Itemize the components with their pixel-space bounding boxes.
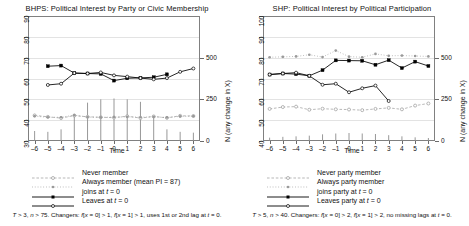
data-point-marker — [33, 115, 36, 118]
data-point-marker — [374, 53, 377, 56]
data-point-marker — [268, 107, 271, 110]
data-point-marker — [152, 78, 155, 81]
legend-item: Never member — [30, 168, 230, 178]
data-point-marker — [192, 67, 195, 70]
legend-item: Leaves party at t = 0 — [265, 197, 465, 207]
data-point-marker — [165, 77, 168, 80]
data-point-marker — [46, 65, 49, 68]
data-point-marker — [400, 108, 403, 111]
legend-label: Never party member — [317, 169, 381, 176]
data-point-marker — [334, 82, 337, 85]
data-point-marker — [308, 74, 311, 77]
legend-label: joins at t = 0 — [82, 188, 120, 195]
footnote-shp: T > 5, n > 40. Changers: f[x = 0] > 2, f… — [235, 211, 469, 218]
data-point-marker — [60, 64, 63, 67]
data-point-marker — [321, 83, 324, 86]
footnote-bhps: T > 3, n > 75. Changers: f[x = 0] > 1, f… — [0, 211, 234, 218]
legend-key-filled-square-icon — [265, 187, 311, 197]
data-point-marker — [281, 72, 284, 75]
data-point-marker — [165, 73, 168, 76]
data-point-marker — [46, 83, 49, 86]
data-point-marker — [414, 55, 417, 58]
legend-label: Always party member — [317, 178, 384, 185]
data-point-marker — [400, 67, 403, 70]
data-point-marker — [348, 91, 351, 94]
legend-label: Never member — [82, 169, 128, 176]
panel-shp: SHP: Political Interest by Political Par… — [235, 0, 469, 226]
data-point-marker — [361, 87, 364, 90]
data-point-marker — [427, 65, 430, 68]
data-point-marker — [46, 116, 49, 119]
figure-two-panel-political-interest: BHPS: Political Interest by Party or Civ… — [0, 0, 469, 226]
data-point-marker — [86, 116, 89, 119]
data-point-marker — [387, 59, 390, 62]
legend-key-filled-square-icon — [30, 187, 76, 197]
legend-bhps: Never memberAlways member (mean PI = 87)… — [30, 168, 230, 206]
data-point-marker — [374, 63, 377, 66]
legend-key-filled-circle-small-icon — [265, 178, 311, 188]
legend-label: Leaves at t = 0 — [82, 197, 128, 204]
data-point-marker — [99, 116, 102, 119]
y2-axis-title-shp: N (any change in X) — [459, 80, 466, 142]
series-line — [48, 69, 194, 85]
data-point-marker — [99, 71, 102, 74]
legend-key-open-circle-icon — [265, 168, 311, 178]
data-point-marker — [73, 114, 76, 117]
data-point-marker — [152, 115, 155, 118]
legend-item: Leaves at t = 0 — [30, 197, 230, 207]
data-point-marker — [321, 56, 324, 59]
legend-key-open-circle-icon — [30, 168, 76, 178]
legend-label: joins party at t = 0 — [317, 188, 372, 195]
data-point-marker — [427, 102, 430, 105]
data-point-marker — [308, 53, 311, 56]
data-point-marker — [139, 77, 142, 80]
y2-axis-title-bhps: N (any change in X) — [224, 80, 231, 142]
data-point-marker — [334, 59, 337, 62]
data-point-marker — [348, 108, 351, 111]
data-point-marker — [179, 115, 182, 118]
data-point-marker — [73, 72, 76, 75]
x-axis-title-bhps: Time — [0, 147, 234, 154]
series-line — [270, 60, 429, 76]
data-point-marker — [139, 116, 142, 119]
data-point-marker — [374, 107, 377, 110]
data-point-marker — [387, 106, 390, 109]
data-point-marker — [308, 108, 311, 111]
data-point-marker — [113, 79, 116, 82]
data-point-marker — [348, 55, 351, 58]
legend-item: joins party at t = 0 — [265, 187, 465, 197]
legend-item: Always member (mean PI = 87) — [30, 178, 230, 188]
data-point-marker — [60, 116, 63, 119]
series-line — [48, 66, 167, 81]
panel-bhps: BHPS: Political Interest by Party or Civ… — [0, 0, 234, 226]
data-point-marker — [387, 100, 390, 103]
legend-key-open-circle-icon — [265, 197, 311, 207]
data-point-marker — [321, 69, 324, 72]
data-point-marker — [374, 84, 377, 87]
series-line — [270, 73, 389, 101]
data-point-marker — [334, 108, 337, 111]
data-point-marker — [281, 55, 284, 58]
data-point-marker — [166, 116, 169, 119]
legend-label: Always member (mean PI = 87) — [82, 178, 180, 185]
data-point-marker — [179, 70, 182, 73]
data-point-marker — [192, 115, 195, 118]
data-point-marker — [126, 115, 129, 118]
data-point-marker — [321, 107, 324, 110]
data-point-marker — [86, 72, 89, 75]
data-point-marker — [334, 49, 337, 52]
legend-key-open-circle-icon — [30, 197, 76, 207]
data-point-marker — [268, 56, 271, 59]
data-point-marker — [60, 82, 63, 85]
data-point-marker — [348, 59, 351, 62]
data-point-marker — [113, 74, 116, 77]
data-point-marker — [295, 105, 298, 108]
data-point-marker — [414, 104, 417, 107]
data-point-marker — [281, 106, 284, 109]
legend-shp: Never party memberAlways party memberjoi… — [265, 168, 465, 206]
legend-item: Always party member — [265, 178, 465, 188]
data-point-marker — [361, 109, 364, 112]
x-axis-title-shp: Time — [235, 147, 469, 154]
data-point-marker — [295, 71, 298, 74]
data-point-marker — [268, 73, 271, 76]
